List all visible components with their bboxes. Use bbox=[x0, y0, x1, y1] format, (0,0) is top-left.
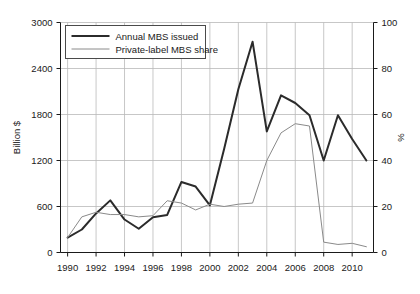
chart-legend: Annual MBS issuedPrivate-label MBS share bbox=[66, 26, 218, 59]
x-tick-label: 1998 bbox=[171, 262, 192, 273]
y-tick-label: 3000 bbox=[31, 17, 52, 28]
y2-tick-label: 60 bbox=[382, 109, 393, 120]
legend-label: Private-label MBS share bbox=[116, 44, 218, 55]
y2-tick-label: 0 bbox=[382, 247, 387, 258]
y-tick-label: 1800 bbox=[31, 109, 52, 120]
y2-tick-label: 80 bbox=[382, 63, 393, 74]
y-tick-label: 2400 bbox=[31, 63, 52, 74]
x-tick-label: 2004 bbox=[256, 262, 277, 273]
y2-tick-label: 100 bbox=[382, 17, 398, 28]
y-tick-label: 600 bbox=[37, 201, 53, 212]
legend-label: Annual MBS issued bbox=[116, 31, 199, 42]
x-tick-label: 1992 bbox=[85, 262, 106, 273]
x-tick-label: 1996 bbox=[142, 262, 163, 273]
dual-axis-line-chart: 1990199219941996199820002002200420062008… bbox=[0, 0, 420, 294]
chart-container: 1990199219941996199820002002200420062008… bbox=[0, 0, 420, 294]
y-tick-label: 0 bbox=[47, 247, 52, 258]
y-axis-title: Billion $ bbox=[11, 120, 22, 154]
y2-axis-title: % bbox=[395, 133, 406, 142]
x-tick-label: 2008 bbox=[313, 262, 334, 273]
x-axis-tick-labels: 1990199219941996199820002002200420062008… bbox=[57, 262, 363, 273]
x-tick-label: 2002 bbox=[228, 262, 249, 273]
x-tick-label: 2006 bbox=[285, 262, 306, 273]
x-tick-label: 2010 bbox=[342, 262, 363, 273]
x-tick-label: 1990 bbox=[57, 262, 78, 273]
x-tick-label: 2000 bbox=[199, 262, 220, 273]
x-tick-label: 1994 bbox=[114, 262, 135, 273]
y2-tick-label: 20 bbox=[382, 201, 393, 212]
y-tick-label: 1200 bbox=[31, 155, 52, 166]
y2-tick-label: 40 bbox=[382, 155, 393, 166]
